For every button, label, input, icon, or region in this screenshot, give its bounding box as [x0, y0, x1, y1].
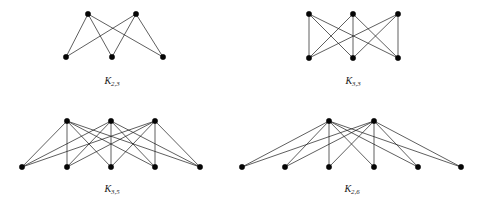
graph-caption-k35: K3,5 — [103, 183, 120, 195]
graph-edge — [242, 121, 329, 167]
graph-vertex-top — [306, 11, 311, 16]
graph-edge — [22, 121, 155, 167]
graph-caption-k33: K3,3 — [344, 75, 361, 87]
graph-vertex-bottom — [282, 164, 287, 169]
captions-layer: K2,3K3,3K3,5K2,6 — [103, 75, 361, 195]
graph-vertex-bottom — [19, 164, 24, 169]
graph-vertex-top — [326, 118, 331, 123]
edges-k26 — [242, 121, 461, 167]
graph-vertex-bottom — [63, 54, 68, 59]
graph-edge — [374, 121, 461, 167]
graph-vertex-bottom — [326, 164, 331, 169]
graph-k33 — [306, 11, 400, 60]
graph-vertex-top — [395, 11, 400, 16]
caption-subscript: 3,5 — [110, 188, 120, 195]
graph-k26 — [239, 118, 463, 169]
graph-vertex-bottom — [395, 55, 400, 60]
graph-edge — [155, 121, 200, 167]
graph-vertex-bottom — [64, 164, 69, 169]
graph-edge — [285, 121, 374, 167]
graph-edge — [374, 121, 418, 167]
graph-vertex-top — [85, 11, 90, 16]
graph-caption-k23: K2,3 — [103, 75, 120, 87]
graph-canvas: K2,3K3,3K3,5K2,6 — [0, 0, 479, 205]
graph-caption-k26: K2,6 — [343, 183, 360, 195]
caption-subscript: 2,6 — [351, 188, 360, 195]
graph-vertex-top — [64, 118, 69, 123]
graph-edge — [22, 121, 67, 167]
graph-vertex-bottom — [152, 164, 157, 169]
graph-edge — [112, 14, 136, 57]
graph-vertex-bottom — [108, 164, 113, 169]
graph-vertex-bottom — [160, 54, 165, 59]
graph-edge — [136, 14, 163, 57]
caption-subscript: 3,3 — [351, 80, 361, 87]
graph-vertex-bottom — [306, 55, 311, 60]
graph-vertex-top — [133, 11, 138, 16]
graph-edge — [22, 121, 111, 167]
edges-k35 — [22, 121, 200, 167]
graph-edge — [242, 121, 374, 167]
graph-vertex-bottom — [458, 164, 463, 169]
graph-vertex-top — [108, 118, 113, 123]
graph-vertex-bottom — [350, 55, 355, 60]
graph-vertex-top — [371, 118, 376, 123]
graph-edge — [67, 121, 200, 167]
edges-k33 — [309, 14, 398, 58]
graph-vertex-bottom — [239, 164, 244, 169]
graph-edge — [329, 121, 461, 167]
graph-edge — [111, 121, 200, 167]
edges-k23 — [66, 14, 163, 57]
graph-vertex-bottom — [371, 164, 376, 169]
graph-k35 — [19, 118, 202, 169]
graph-vertex-bottom — [109, 54, 114, 59]
graph-vertex-top — [152, 118, 157, 123]
graphs-layer — [19, 11, 463, 169]
graph-vertex-bottom — [415, 164, 420, 169]
graph-vertex-top — [350, 11, 355, 16]
caption-subscript: 2,3 — [111, 80, 120, 87]
graph-vertex-bottom — [197, 164, 202, 169]
bipartite-graph-figure: K2,3K3,3K3,5K2,6 — [0, 0, 479, 205]
graph-edge — [88, 14, 112, 57]
graph-edge — [329, 121, 418, 167]
graph-k23 — [63, 11, 165, 59]
